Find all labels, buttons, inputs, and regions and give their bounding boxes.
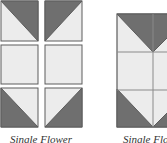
right-figure-caption: Single Flower [123,133,167,143]
left-figure-caption: Single Flower [10,133,72,143]
tile-r2c1 [1,45,38,84]
right-block-grid [116,13,167,129]
tile-r1c1 [1,1,38,41]
right-figure-joined-block [116,13,167,129]
tile-r3c1 [1,88,38,127]
tile-r1c2 [45,1,82,41]
tile-r3c2 [45,88,82,127]
tile-r2c2 [45,45,82,84]
left-tile-grid [0,0,85,130]
left-figure-separated-tiles [0,0,85,130]
